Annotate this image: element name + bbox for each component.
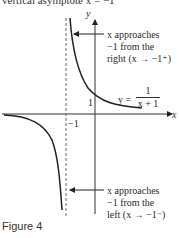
- right-annotation-line1: x approaches: [107, 29, 159, 40]
- function-lhs: y =: [118, 94, 131, 105]
- figure-caption: Figure 4: [2, 220, 42, 232]
- right-annotation-line2: −1 from the: [107, 41, 154, 52]
- left-annotation-line1: x approaches: [107, 185, 159, 196]
- x-axis-label: x: [172, 109, 176, 120]
- function-denominator: x + 1: [134, 99, 162, 109]
- left-annotation-line3: left (x → −1⁻): [107, 209, 165, 220]
- left-branch-curve: [4, 115, 62, 210]
- function-numerator: 1: [136, 86, 160, 96]
- y-axis-label: y: [86, 8, 90, 19]
- x-tick-minus-one: −1: [68, 118, 79, 129]
- y-tick-one: 1: [88, 97, 93, 108]
- right-annotation-line3: right (x → −1⁺): [107, 53, 171, 64]
- left-annotation-line2: −1 from the: [107, 197, 154, 208]
